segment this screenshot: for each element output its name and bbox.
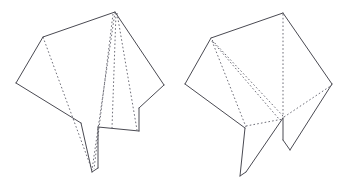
origami-diagram-svg bbox=[0, 0, 349, 191]
origami-diagram-root bbox=[0, 0, 349, 191]
